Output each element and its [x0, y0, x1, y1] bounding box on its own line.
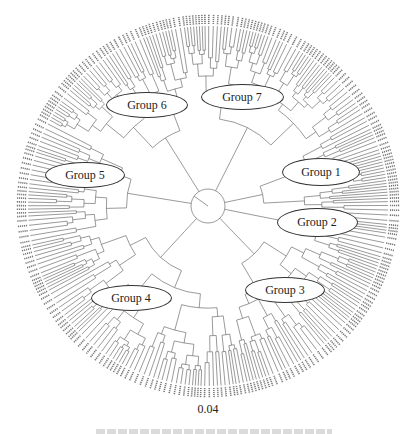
group-7-label: Group 7 — [201, 84, 284, 110]
group-5-label: Group 5 — [45, 162, 125, 188]
group-2-label: Group 2 — [277, 208, 358, 237]
scale-bar-label: 0.04 — [0, 402, 410, 417]
group-3-label: Group 3 — [245, 277, 325, 303]
group-1-label: Group 1 — [282, 158, 360, 186]
group-4-label: Group 4 — [91, 285, 172, 311]
group-6-label: Group 6 — [106, 92, 188, 118]
figure-caption-clipped — [0, 424, 410, 434]
